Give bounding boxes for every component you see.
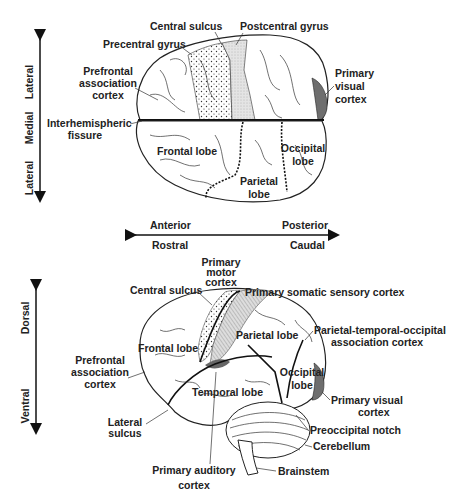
axis-label-rostral: Rostral [152,239,188,251]
label-prefrontal-1: Prefrontal [83,65,133,77]
label-temporal-lobe: Temporal lobe [192,386,263,398]
brain-diagram: Lateral Medial Lateral Central sulcus Po… [0,0,463,504]
label-prefrontal-3: cortex [92,89,124,101]
label-visual-3: cortex [335,93,367,105]
label-occipital-1-top: Occipital [281,142,325,154]
label-frontal-lobe-top: Frontal lobe [157,145,217,157]
label-auditory-2: cortex [178,479,210,491]
axis-label-ventral: Ventral [19,388,31,423]
label-occipital-2-top: lobe [292,155,314,167]
label-pto-1: Parietal-temporal-occipital [314,324,446,336]
axis-label-posterior: Posterior [282,219,328,231]
label-brainstem: Brainstem [278,465,329,477]
axis-label-dorsal: Dorsal [19,302,31,335]
axis-label-caudal: Caudal [290,239,325,251]
label-postcentral-gyrus: Postcentral gyrus [240,20,329,32]
axis-label-medial: Medial [23,112,35,145]
label-prefrontal-2: association [79,77,137,89]
label-occipital-side-2: lobe [291,379,313,391]
label-cerebellum: Cerebellum [313,440,370,452]
label-parietal-1-top: Parietal [240,175,278,187]
top-view: Lateral Medial Lateral Central sulcus Po… [23,20,374,251]
label-interhemispheric-1: Interhemispheric [47,117,132,129]
label-precentral-gyrus: Precentral gyrus [103,38,186,50]
label-central-sulcus-side: Central sulcus [130,284,203,296]
cerebellum-shape [226,402,310,458]
label-lateral-sulcus-2: sulcus [108,427,141,439]
label-parietal-lobe-side: Parietal lobe [236,329,299,341]
label-prefrontal-side-3: cortex [84,378,116,390]
label-occipital-side-1: Occipital [280,366,324,378]
label-parietal-2-top: lobe [248,188,270,200]
label-visual-side-1: Primary visual [331,394,403,406]
label-somatic-sensory: Primary somatic sensory cortex [245,286,404,298]
label-preoccipital-notch: Preoccipital notch [310,424,401,436]
label-prefrontal-side-1: Prefrontal [75,354,125,366]
side-view: Dorsal Ventral Primary motor cortex Cent… [19,256,446,491]
label-interhemispheric-2: fissure [68,129,103,141]
label-visual-side-2: cortex [358,406,390,418]
label-visual-2: visual [335,80,365,92]
label-central-sulcus-top: Central sulcus [150,20,223,32]
axis-label-lateral-top: Lateral [23,65,35,100]
label-motor-3: cortex [205,276,237,288]
label-visual-1: Primary [335,67,374,79]
axis-label-anterior: Anterior [150,219,191,231]
axis-label-lateral-bottom: Lateral [23,161,35,196]
label-auditory-1: Primary auditory [152,464,236,476]
label-pto-2: association cortex [331,336,423,348]
label-frontal-lobe-side: Frontal lobe [138,342,198,354]
label-prefrontal-side-2: association [71,366,129,378]
